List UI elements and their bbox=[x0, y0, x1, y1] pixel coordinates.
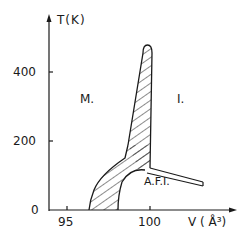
region-label-afi: A.F.I. bbox=[144, 176, 170, 188]
lower-coexistence-band bbox=[89, 145, 150, 210]
x-tick-95: 95 bbox=[58, 216, 73, 228]
x-axis-label: V ( Å³) bbox=[188, 216, 226, 228]
x-axis bbox=[49, 206, 237, 213]
region-label-m: M. bbox=[80, 93, 94, 105]
y-tick-200: 200 bbox=[13, 135, 36, 147]
y-axis-arrow-icon bbox=[47, 14, 52, 22]
y-tick-0: 0 bbox=[31, 204, 39, 216]
y-axis-label: T(K) bbox=[57, 14, 86, 26]
y-tick-400: 400 bbox=[13, 66, 36, 78]
y-axis bbox=[47, 14, 54, 211]
x-axis-arrow-icon bbox=[229, 208, 237, 213]
x-tick-100: 100 bbox=[138, 216, 161, 228]
region-label-i: I. bbox=[177, 93, 184, 105]
